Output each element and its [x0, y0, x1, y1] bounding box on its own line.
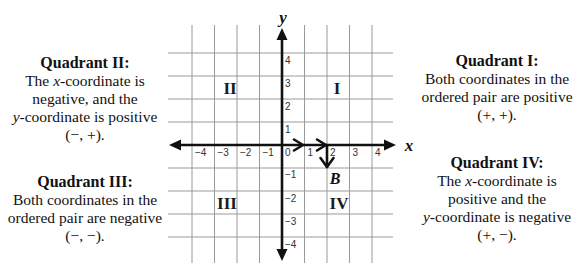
variable-y: y [423, 208, 430, 225]
y-tick: 1 [285, 124, 291, 135]
quadrant-ii-description: Quadrant II: The x-coordinate is negativ… [0, 54, 170, 144]
y-tick: −1 [285, 169, 297, 180]
arrow-right-icon [384, 140, 396, 151]
y-tick: −2 [285, 193, 297, 204]
description-line: ordered pair are positive [411, 88, 583, 106]
quadrant-numeral-ii: II [223, 79, 237, 98]
x-tick: −1 [263, 147, 275, 158]
text: -coordinate is negative [430, 208, 571, 225]
text: -coordinate is positive [20, 108, 158, 125]
arrow-up-icon [277, 28, 288, 40]
variable-x: x [465, 172, 472, 189]
description-line: The x-coordinate is [411, 172, 583, 190]
quadrant-numeral-iii: III [217, 194, 237, 213]
x-tick: 3 [353, 147, 359, 158]
quadrant-iii-title: Quadrant III: [0, 173, 170, 191]
text: The [25, 72, 53, 89]
description-line: y-coordinate is positive [0, 108, 170, 126]
y-tick: 4 [285, 55, 291, 66]
quadrant-iii-description: Quadrant III: Both coordinates in the or… [0, 173, 170, 245]
point-b-label: B [329, 170, 341, 187]
arrow-down-icon [277, 249, 288, 261]
description-line: negative, and the [0, 90, 170, 108]
sign-pair: (−, +). [0, 126, 170, 144]
y-tick: 2 [285, 101, 291, 112]
description-line: y-coordinate is negative [411, 208, 583, 226]
axes [169, 28, 396, 261]
description-line: Both coordinates in the [0, 191, 170, 209]
description-line: positive and the [411, 190, 583, 208]
x-tick: 4 [375, 147, 381, 158]
x-axis-label: x [404, 136, 414, 155]
y-axis-label: y [277, 8, 287, 27]
quadrant-iv-title: Quadrant IV: [411, 154, 583, 172]
path-to-point-b [294, 140, 334, 168]
sign-pair: (+, +). [411, 106, 583, 124]
variable-y: y [13, 108, 20, 125]
x-tick: 2 [330, 147, 336, 158]
description-line: ordered pair are negative [0, 209, 170, 227]
quadrant-numeral-i: I [334, 79, 341, 98]
sign-pair: (+, −). [411, 226, 583, 244]
arrow-left-icon [169, 140, 181, 151]
x-tick-origin: 0 [285, 147, 291, 158]
x-tick: 1 [308, 147, 314, 158]
quadrant-i-title: Quadrant I: [411, 52, 583, 70]
text: The [437, 172, 465, 189]
quadrant-numeral-iv: IV [330, 194, 350, 213]
y-tick: −3 [285, 216, 297, 227]
quadrant-i-description: Quadrant I: Both coordinates in the orde… [411, 52, 583, 124]
y-tick: −4 [285, 239, 297, 250]
variable-x: x [53, 72, 60, 89]
description-line: Both coordinates in the [411, 70, 583, 88]
x-tick: −4 [195, 147, 207, 158]
x-tick: −2 [240, 147, 252, 158]
sign-pair: (−, −). [0, 227, 170, 245]
text: -coordinate is [472, 172, 557, 189]
text: -coordinate is [60, 72, 145, 89]
quadrant-ii-title: Quadrant II: [0, 54, 170, 72]
description-line: The x-coordinate is [0, 72, 170, 90]
x-tick-labels: −4 −3 −2 −1 0 1 2 3 4 [195, 147, 381, 158]
x-tick: −3 [218, 147, 230, 158]
y-tick: 3 [285, 78, 291, 89]
quadrant-iv-description: Quadrant IV: The x-coordinate is positiv… [411, 154, 583, 244]
